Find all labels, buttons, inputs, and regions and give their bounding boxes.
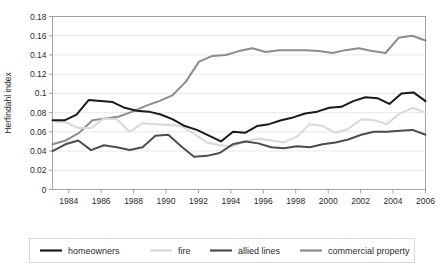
y-tick-label: 0 (42, 185, 47, 195)
y-axis-tickmarks (49, 17, 53, 190)
legend-label-text: homeowners (68, 246, 120, 256)
x-tick-label: 1992 (189, 196, 208, 206)
x-tick-label: 1996 (254, 196, 273, 206)
x-axis-tick-labels: 1984198619881990199219941996199820002002… (59, 196, 435, 206)
x-tick-label: 1994 (221, 196, 240, 206)
y-tick-label: 0.1 (35, 88, 47, 98)
x-tick-label: 1986 (92, 196, 111, 206)
y-tick-label: 0.04 (30, 146, 47, 156)
herfindahl-index-line-chart: 00.020.040.060.080.10.120.140.160.18 198… (0, 0, 444, 271)
legend-label-text: fire (178, 246, 191, 256)
y-tick-label: 0.06 (30, 127, 47, 137)
plot-area-border (53, 17, 426, 190)
x-tick-label: 2002 (351, 196, 370, 206)
y-axis-title: Herfindahl index (3, 72, 13, 134)
y-axis-tick-labels: 00.020.040.060.080.10.120.140.160.18 (30, 12, 47, 195)
chart-canvas: 00.020.040.060.080.10.120.140.160.18 198… (0, 0, 444, 271)
y-tick-label: 0.02 (30, 165, 47, 175)
series-line-fire (53, 108, 426, 146)
y-tick-label: 0.16 (30, 31, 47, 41)
legend-label-text: allied lines (238, 246, 281, 256)
x-tick-label: 2004 (384, 196, 403, 206)
x-tick-label: 2000 (319, 196, 338, 206)
legend-label-text: commercial property (328, 246, 410, 256)
x-tick-label: 2006 (416, 196, 435, 206)
x-axis-tickmarks (69, 190, 426, 194)
series-line-commercial-property (53, 36, 426, 145)
y-tick-label: 0.08 (30, 108, 47, 118)
y-tick-label: 0.14 (30, 50, 47, 60)
gridlines (53, 17, 426, 171)
x-tick-label: 1988 (124, 196, 143, 206)
plot-frame (53, 17, 426, 190)
y-axis-title-text: Herfindahl index (3, 72, 13, 134)
x-tick-label: 1998 (286, 196, 305, 206)
series-line-allied-lines (53, 130, 426, 157)
y-tick-label: 0.18 (30, 12, 47, 22)
data-series (53, 36, 426, 157)
y-tick-label: 0.12 (30, 69, 47, 79)
x-tick-label: 1990 (157, 196, 176, 206)
x-tick-label: 1984 (59, 196, 78, 206)
series-line-homeowners (53, 92, 426, 141)
chart-legend: homeownersfireallied linescommercial pro… (30, 239, 415, 263)
